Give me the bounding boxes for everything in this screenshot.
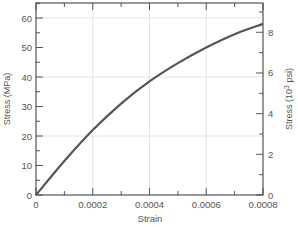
- y-tick-labels-right: 02468: [268, 27, 273, 201]
- y-tick-label: 40: [21, 72, 32, 83]
- x-tick-label: 0.0004: [135, 199, 164, 210]
- stress-strain-chart: 00.00020.00040.00060.0008 0102030405060 …: [0, 0, 298, 227]
- x-tick-label: 0.0006: [192, 199, 221, 210]
- x-axis-label: Strain: [138, 213, 163, 224]
- y-tick-label: 10: [21, 160, 32, 171]
- y-tick-label: 0: [27, 190, 32, 201]
- y-tick-label: 50: [21, 42, 32, 53]
- x-tick-label: 0.0008: [248, 199, 277, 210]
- x-tick-labels: 00.00020.00040.00060.0008: [33, 199, 277, 210]
- x-tick-label: 0.0002: [78, 199, 107, 210]
- x-tick-label: 0: [33, 199, 38, 210]
- y-axis-label-left: Stress (MPa): [2, 73, 12, 126]
- y-tick-label-right: 8: [268, 27, 273, 38]
- grid-lines: [36, 3, 263, 195]
- y-tick-label: 20: [21, 131, 32, 142]
- y-tick-label-right: 4: [268, 108, 273, 119]
- y-tick-labels-left: 0102030405060: [21, 13, 32, 201]
- y-tick-label-right: 0: [268, 190, 273, 201]
- y-tick-label-right: 2: [268, 149, 273, 160]
- y-tick-label-right: 6: [268, 67, 273, 78]
- y-axis-label-right: Stress (103 psi): [283, 68, 294, 130]
- y-tick-label: 30: [21, 101, 32, 112]
- y-tick-label: 60: [21, 13, 32, 24]
